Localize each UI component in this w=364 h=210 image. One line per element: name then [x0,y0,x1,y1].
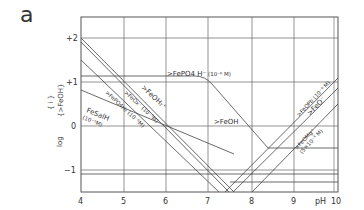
x-tick-label: 9 [291,197,296,206]
x-axis-title: pH [315,197,326,206]
x-tick-label: 8 [249,197,254,206]
x-tick-label: 7 [205,197,210,206]
vertical-gridlines [124,17,294,192]
x-tick-label: 5 [121,197,126,206]
label-fepo4h-conc: (10⁻⁶ M) [208,71,231,77]
y-tick-label: −1 [64,166,76,175]
label-fepo4h: >FePO4 H⁻ [167,70,206,78]
y-tick-label: +2 [66,34,78,43]
y-tick-label: +1 [66,78,78,87]
x-tick-label: 10 [331,197,341,206]
y-axis-label-feoh: {>FeOH} [57,84,65,118]
y-axis-label-log: log [56,136,64,147]
x-tick-label: 4 [78,197,83,206]
y-tick-label: 0 [71,122,76,131]
y-axis-label-i: { i } [47,95,55,110]
chart: +2 +1 0 −1 4 5 6 7 8 9 pH 10 log { i } {… [0,0,364,210]
label-feoh: >FeOH [214,118,239,126]
x-tick-label: 6 [163,197,168,206]
